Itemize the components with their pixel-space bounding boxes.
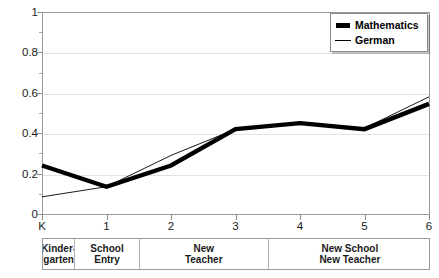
- x-axis-tick-label: 2: [156, 219, 186, 233]
- line-chart: 00.20.40.60.81 K123456 MathematicsGerman…: [0, 0, 439, 278]
- x-axis-tick-label: 3: [221, 219, 251, 233]
- legend-item: German: [335, 32, 423, 47]
- category-band: New SchoolNew Teacher: [269, 239, 431, 269]
- category-band: Kinder-garten: [43, 239, 75, 269]
- legend-item: Mathematics: [335, 17, 423, 32]
- legend-swatch-shape: [335, 40, 351, 41]
- x-axis-labels: K123456: [0, 219, 439, 235]
- thin-line-marker-icon: [335, 33, 351, 47]
- y-axis-tick-label: 0.2: [4, 169, 38, 180]
- legend-item-label: German: [355, 34, 395, 46]
- category-band-label-line: School: [90, 243, 123, 255]
- gridline: [43, 53, 429, 54]
- x-axis-tick-label: 6: [414, 219, 439, 233]
- x-axis-tick-label: 1: [92, 219, 122, 233]
- y-axis-labels: 00.20.40.60.81: [0, 12, 38, 215]
- category-band-label-line: New Teacher: [319, 254, 380, 266]
- gridline: [43, 134, 429, 135]
- category-band-label-line: garten: [43, 254, 74, 266]
- category-band-label-line: Teacher: [185, 254, 223, 266]
- category-band-label-line: New: [193, 243, 214, 255]
- y-axis-tick-label: 0.6: [4, 88, 38, 99]
- category-band: SchoolEntry: [75, 239, 140, 269]
- x-axis-tick-label: 5: [350, 219, 380, 233]
- category-band-label-line: Kinder-: [43, 243, 75, 255]
- category-band-label-line: New School: [322, 243, 379, 255]
- legend-swatch-shape: [336, 23, 350, 28]
- y-axis-tick-label: 0.4: [4, 128, 38, 139]
- chart-legend: MathematicsGerman: [330, 13, 428, 52]
- gridline: [43, 94, 429, 95]
- legend-item-label: Mathematics: [355, 19, 419, 31]
- x-axis-tick-label: 4: [285, 219, 315, 233]
- y-axis-tick-label: 1: [4, 7, 38, 18]
- category-band-label-line: Entry: [94, 254, 120, 266]
- x-axis-tick-label: K: [27, 219, 57, 233]
- category-band: NewTeacher: [140, 239, 269, 269]
- category-band-bar: Kinder-gartenSchoolEntryNewTeacherNew Sc…: [42, 238, 430, 270]
- y-axis-tick-label: 0.8: [4, 47, 38, 58]
- gridline: [43, 175, 429, 176]
- thick-bar-marker-icon: [335, 18, 351, 32]
